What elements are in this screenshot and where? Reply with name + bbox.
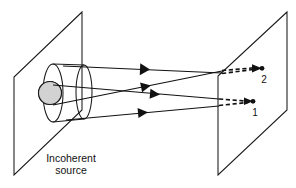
tube-far-ellipse	[76, 65, 92, 119]
source-caption-line2: source	[55, 164, 87, 176]
point-2-dot	[260, 66, 265, 71]
diagram-canvas: 2 1 Incoherent source	[0, 0, 296, 188]
observation-plane	[218, 12, 287, 175]
ray-upper-outer-arrow	[140, 63, 151, 75]
ray-upper-to-point-1	[53, 85, 219, 99]
ray-lower-outer-arrow	[138, 107, 149, 118]
ray-lower-to-point-2-arrow	[140, 81, 152, 93]
point-1-label: 1	[252, 107, 258, 118]
incoherent-source-diagram: 2 1 Incoherent source	[0, 0, 296, 188]
point-2-label: 2	[261, 74, 267, 85]
source-disk	[37, 80, 64, 107]
dash-to-point-1-lower	[219, 102, 248, 105]
point-1-dot	[251, 99, 256, 104]
tube-top-edge	[53, 64, 84, 65]
dashed-extensions	[219, 64, 262, 105]
ray-upper-to-point-1-arrow	[150, 89, 161, 100]
dash-to-point-1-upper	[219, 99, 248, 101]
ray-lower-to-point-2	[53, 71, 222, 105]
source-caption-line1: Incoherent	[46, 152, 96, 164]
